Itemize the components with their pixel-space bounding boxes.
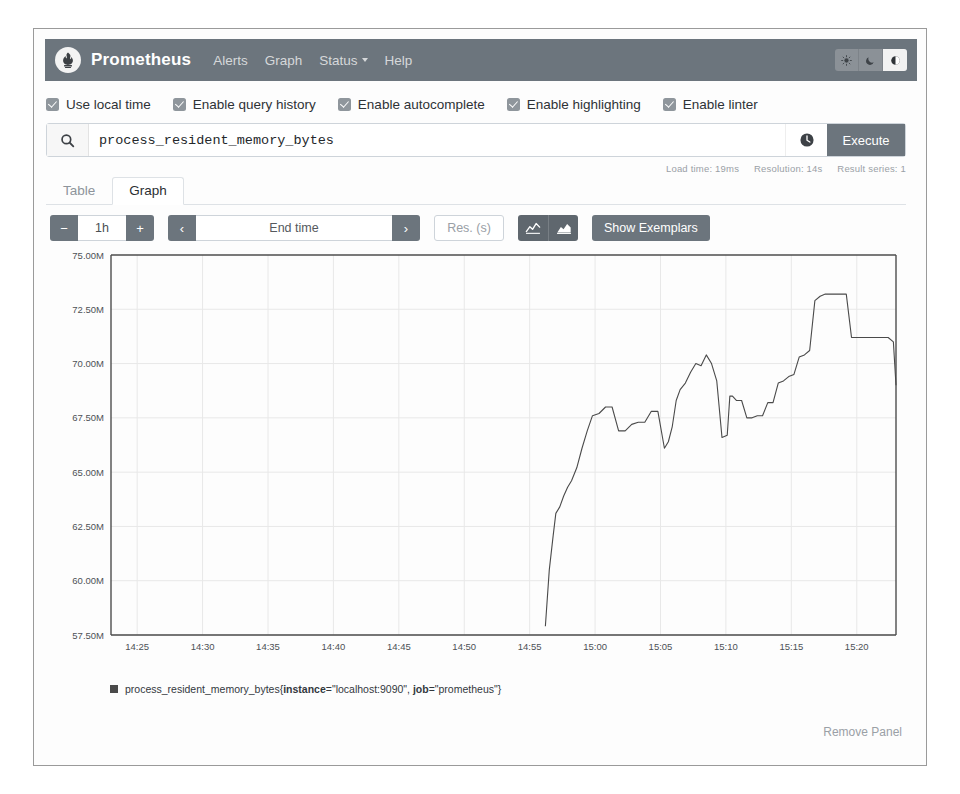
svg-text:15:00: 15:00: [583, 641, 607, 652]
svg-text:14:40: 14:40: [322, 641, 346, 652]
option-label: Use local time: [66, 97, 151, 112]
checkbox-enable-query-history[interactable]: [173, 98, 186, 111]
checkbox-enable-linter[interactable]: [663, 98, 676, 111]
checkbox-enable-highlighting[interactable]: [507, 98, 520, 111]
end-time-control: ‹ End time ›: [168, 215, 420, 241]
prometheus-torch-icon: [55, 47, 81, 73]
decrease-range-button[interactable]: −: [50, 215, 78, 241]
svg-text:15:10: 15:10: [714, 641, 738, 652]
svg-text:70.00M: 70.00M: [72, 358, 104, 369]
tab-graph[interactable]: Graph: [112, 177, 184, 205]
load-time: Load time: 19ms: [666, 163, 739, 174]
legend-close-brace: }: [498, 683, 502, 695]
chart-legend-item[interactable]: process_resident_memory_bytes{instance="…: [110, 683, 501, 695]
svg-text:62.50M: 62.50M: [72, 521, 104, 532]
nav-link-status-label: Status: [319, 53, 357, 68]
svg-text:14:50: 14:50: [452, 641, 476, 652]
option-enable-highlighting[interactable]: Enable highlighting: [507, 97, 641, 112]
moon-icon[interactable]: [859, 49, 883, 71]
execute-button[interactable]: Execute: [827, 124, 905, 156]
option-label: Enable linter: [683, 97, 758, 112]
chart-type-toggle: [518, 215, 578, 241]
sun-icon[interactable]: [835, 49, 859, 71]
svg-text:14:35: 14:35: [256, 641, 280, 652]
svg-text:14:25: 14:25: [125, 641, 149, 652]
brand-name[interactable]: Prometheus: [91, 50, 191, 70]
svg-text:15:20: 15:20: [845, 641, 869, 652]
svg-text:14:45: 14:45: [387, 641, 411, 652]
increase-range-button[interactable]: +: [126, 215, 154, 241]
svg-text:60.00M: 60.00M: [72, 575, 104, 586]
legend-label: process_resident_memory_bytes{instance="…: [125, 683, 501, 695]
option-enable-linter[interactable]: Enable linter: [663, 97, 758, 112]
result-series: Result series: 1: [837, 163, 906, 174]
chevron-down-icon: [362, 58, 368, 62]
prometheus-app-frame: Prometheus Alerts Graph Status Help: [33, 28, 927, 766]
query-input-group: Execute: [46, 123, 906, 157]
legend-label-val-instance: ="localhost:9090",: [326, 683, 413, 695]
option-use-local-time[interactable]: Use local time: [46, 97, 151, 112]
option-label: Enable query history: [193, 97, 316, 112]
graph-chart[interactable]: 75.00M72.50M70.00M67.50M65.00M62.50M60.0…: [50, 247, 906, 667]
range-input[interactable]: 1h: [78, 215, 126, 241]
svg-text:14:55: 14:55: [518, 641, 542, 652]
svg-text:75.00M: 75.00M: [72, 250, 104, 261]
option-enable-query-history[interactable]: Enable query history: [173, 97, 316, 112]
legend-color-swatch: [110, 685, 118, 693]
resolution: Resolution: 14s: [754, 163, 822, 174]
option-enable-autocomplete[interactable]: Enable autocomplete: [338, 97, 485, 112]
checkbox-use-local-time[interactable]: [46, 98, 59, 111]
svg-text:15:05: 15:05: [649, 641, 673, 652]
query-panel: Execute Load time: 19ms Resolution: 14s …: [46, 123, 906, 753]
tab-table[interactable]: Table: [46, 177, 112, 205]
history-clock-icon[interactable]: [785, 124, 827, 156]
legend-label-key-job: job: [413, 683, 429, 695]
legend-metric-name: process_resident_memory_bytes: [125, 683, 280, 695]
option-label: Enable autocomplete: [358, 97, 485, 112]
svg-text:57.50M: 57.50M: [72, 630, 104, 641]
graph-controls: − 1h + ‹ End time › Res. (s): [50, 215, 710, 241]
end-time-input[interactable]: End time: [196, 215, 392, 241]
query-options-row: Use local time Enable query history Enab…: [46, 91, 906, 117]
nav-link-graph[interactable]: Graph: [265, 53, 303, 68]
legend-label-key-instance: instance: [283, 683, 326, 695]
theme-switcher: [835, 49, 907, 71]
area-chart-icon[interactable]: [548, 215, 578, 241]
result-tabs: Table Graph: [46, 175, 906, 205]
shift-forward-button[interactable]: ›: [392, 215, 420, 241]
line-chart-icon[interactable]: [518, 215, 548, 241]
svg-text:15:15: 15:15: [779, 641, 803, 652]
svg-text:65.00M: 65.00M: [72, 467, 104, 478]
contrast-icon[interactable]: [883, 49, 907, 71]
shift-back-button[interactable]: ‹: [168, 215, 196, 241]
svg-text:14:30: 14:30: [191, 641, 215, 652]
nav-link-status[interactable]: Status: [319, 53, 367, 68]
legend-label-val-job: ="prometheus": [429, 683, 498, 695]
nav-link-alerts[interactable]: Alerts: [213, 53, 248, 68]
range-control: − 1h +: [50, 215, 154, 241]
resolution-input[interactable]: Res. (s): [434, 215, 504, 241]
remove-panel-link[interactable]: Remove Panel: [823, 725, 902, 739]
search-icon[interactable]: [47, 124, 89, 156]
svg-text:72.50M: 72.50M: [72, 304, 104, 315]
svg-text:67.50M: 67.50M: [72, 412, 104, 423]
navbar: Prometheus Alerts Graph Status Help: [45, 39, 917, 81]
show-exemplars-button[interactable]: Show Exemplars: [592, 215, 710, 241]
screenshot-root: Prometheus Alerts Graph Status Help: [0, 0, 960, 794]
nav-link-help[interactable]: Help: [385, 53, 413, 68]
query-stats: Load time: 19ms Resolution: 14s Result s…: [654, 163, 906, 174]
chart-svg: 75.00M72.50M70.00M67.50M65.00M62.50M60.0…: [50, 247, 906, 667]
option-label: Enable highlighting: [527, 97, 641, 112]
checkbox-enable-autocomplete[interactable]: [338, 98, 351, 111]
query-input[interactable]: [89, 124, 785, 156]
